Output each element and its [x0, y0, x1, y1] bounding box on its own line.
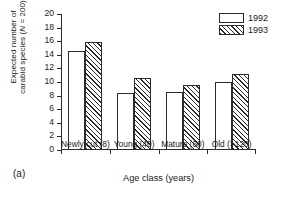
y-axis-tick-label: 12	[44, 62, 54, 72]
y-axis-tick: 2	[57, 136, 61, 137]
x-axis-tick	[207, 150, 208, 154]
bar-1993-newly-cut-8-	[85, 42, 102, 150]
panel-label: (a)	[13, 168, 25, 179]
y-axis-tick: 10	[57, 82, 61, 83]
x-axis-title: Age class (years)	[61, 173, 256, 183]
x-axis-category-label: Newly cut (8)	[61, 139, 110, 149]
y-axis-tick-label: 10	[44, 76, 54, 86]
x-axis-tick	[255, 150, 256, 154]
legend-swatch-1993	[219, 25, 244, 35]
x-axis-tick	[110, 150, 111, 154]
x-axis-tick	[61, 150, 62, 154]
y-axis-title-line1: Expected number of	[9, 10, 18, 83]
y-axis-tick: 6	[57, 109, 61, 110]
y-axis-tick: 14	[57, 55, 61, 56]
figure-panel-a: Expected number of carabid species (N = …	[0, 0, 293, 198]
y-axis-title-n-italic: N	[18, 26, 27, 32]
y-axis-tick-label: 2	[49, 130, 54, 140]
y-axis-tick: 8	[57, 96, 61, 97]
x-axis-category-label: Young (40)	[114, 139, 155, 149]
y-axis-title-line2-pre: carabid species (	[18, 32, 27, 94]
x-axis-tick	[159, 150, 160, 154]
y-axis-tick: 4	[57, 123, 61, 124]
legend-label-1992: 1992	[248, 13, 268, 23]
y-axis-tick-label: 6	[49, 103, 54, 113]
y-axis-tick: 18	[57, 28, 61, 29]
y-axis-tick: 12	[57, 68, 61, 69]
y-axis-tick-label: 20	[44, 8, 54, 18]
y-axis-tick-label: 18	[44, 22, 54, 32]
legend-item-1992: 1992	[219, 13, 268, 23]
y-axis-tick-label: 0	[49, 144, 54, 154]
legend: 1992 1993	[219, 13, 268, 35]
y-axis-tick-label: 4	[49, 117, 54, 127]
y-axis-tick-label: 14	[44, 49, 54, 59]
legend-item-1993: 1993	[219, 25, 268, 35]
y-axis-tick-label: 16	[44, 35, 54, 45]
x-axis-category-label: Mature (60)	[161, 139, 204, 149]
x-axis-category-label: Old (>120)	[212, 139, 252, 149]
y-axis-title-line2: carabid species (N = 200)	[18, 0, 27, 94]
y-axis-tick: 16	[57, 41, 61, 42]
y-axis-title-line2-post: = 200)	[18, 0, 27, 26]
y-axis-tick-label: 8	[49, 90, 54, 100]
bar-1992-newly-cut-8-	[68, 51, 85, 150]
legend-label-1993: 1993	[248, 25, 268, 35]
y-axis-title: Expected number of carabid species (N = …	[3, 0, 33, 117]
y-axis-tick: 20	[57, 14, 61, 15]
legend-swatch-1992	[219, 13, 244, 23]
y-axis-spine	[61, 14, 62, 150]
